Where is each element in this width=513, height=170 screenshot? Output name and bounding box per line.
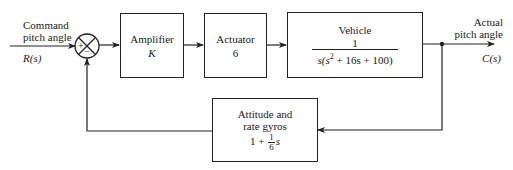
input-label: Command pitch angle	[23, 19, 72, 43]
sign-bottom: −	[84, 46, 90, 58]
amplifier-block: Amplifier K	[120, 13, 184, 78]
sign-top: -	[85, 29, 88, 41]
output-label: Actual pitch angle	[454, 16, 503, 40]
sign-left: +	[78, 40, 84, 52]
actuator-block: Actuator 6	[204, 13, 267, 78]
output-signal: C(s)	[482, 52, 501, 64]
input-signal: R(s)	[23, 52, 41, 64]
vehicle-block: Vehicle 1 s(s2 + 16s + 100)	[287, 12, 423, 78]
vehicle-transfer-function: 1 s(s2 + 16s + 100)	[312, 37, 398, 67]
feedback-block: Attitude and rate gyros 1 + 16s	[212, 98, 318, 162]
